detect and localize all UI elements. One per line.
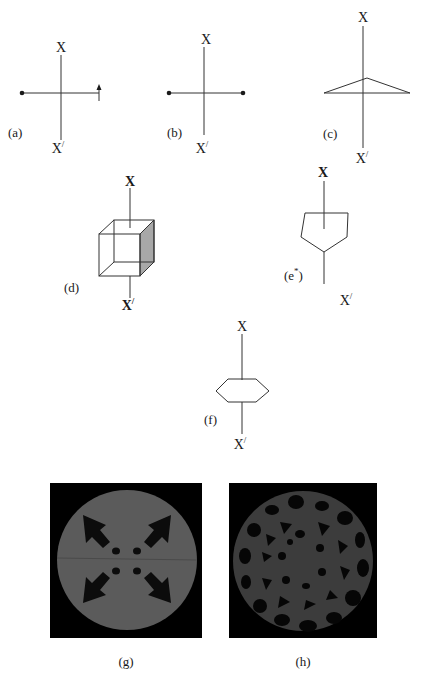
panel-label: (d): [64, 280, 79, 295]
arrow-up-icon: [97, 84, 102, 90]
axis-label-bottom: X/: [356, 149, 369, 166]
panel-a: X X/ (a): [8, 40, 102, 156]
panel-label: (a): [8, 125, 22, 140]
panel-label: (g): [118, 654, 133, 669]
cube-edge: [99, 220, 114, 234]
panel-f: X X/ (f): [204, 319, 269, 452]
panel-g: (g): [50, 483, 202, 669]
cube-shaded-face: [140, 220, 154, 276]
panel-label: (f): [204, 412, 217, 427]
axis-label-top: X: [237, 319, 247, 334]
axis-label-top: X: [125, 174, 135, 189]
panel-h: (h): [229, 483, 377, 669]
axis-label-bottom: X/: [196, 139, 209, 156]
panel-label: (b): [167, 125, 182, 140]
hole: [112, 548, 120, 555]
panel-e: X X/ (e*): [284, 165, 353, 308]
hole: [133, 548, 141, 555]
hexagon-shape: [216, 379, 269, 402]
panel-d: X X/ (d): [64, 174, 154, 313]
axis-label-bottom: X/: [340, 291, 353, 308]
axis-label-bottom: X/: [122, 296, 135, 313]
figure-canvas: X X/ (a) X X/ (b) X X/ (c) X X/: [0, 0, 432, 680]
panel-label: (c): [323, 126, 337, 141]
axis-label-top: X: [56, 40, 66, 55]
triangle-shape: [324, 78, 410, 93]
disk: [233, 491, 373, 631]
hole: [133, 568, 141, 575]
panel-b: X X/ (b): [167, 32, 246, 156]
axis-label-top: X: [318, 165, 328, 180]
cube-edge: [99, 262, 114, 276]
axis-label-top: X: [201, 32, 211, 47]
panel-c: X X/ (c): [323, 10, 410, 166]
dot-icon: [20, 91, 25, 96]
axis-label-bottom: X/: [52, 139, 65, 156]
dot-icon: [167, 91, 172, 96]
panel-label: (e*): [284, 266, 303, 283]
dot-icon: [241, 91, 246, 96]
axis-label-top: X: [358, 10, 368, 25]
axis-label-bottom: X/: [234, 435, 247, 452]
panel-label: (h): [295, 654, 310, 669]
hole: [112, 568, 120, 575]
